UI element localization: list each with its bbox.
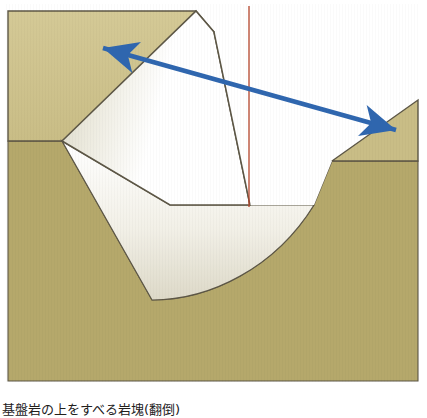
geology-cross-section-figure: 基盤岩の上をすべる岩塊(翻倒) [0, 0, 427, 418]
cross-section-drawing [0, 0, 427, 418]
margin-right [419, 0, 427, 418]
margin-top [0, 0, 427, 4]
figure-caption-text: 基盤岩の上をすべる岩塊(翻倒) [2, 402, 180, 417]
paper-texture-overlay [0, 0, 427, 418]
figure-caption: 基盤岩の上をすべる岩塊(翻倒) [0, 400, 427, 418]
margin-left [0, 0, 6, 418]
